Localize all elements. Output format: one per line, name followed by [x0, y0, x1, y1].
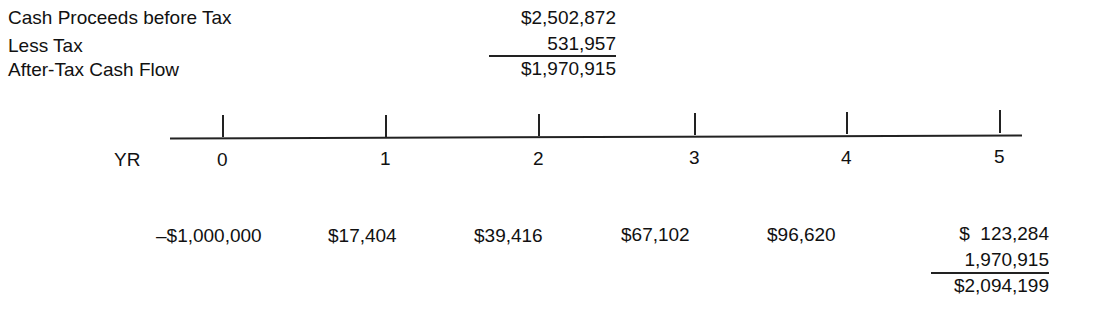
- tick-year-3: [694, 113, 696, 135]
- cash-flow-year-2: $39,416: [474, 225, 543, 247]
- tick-year-1: [385, 115, 387, 137]
- year-label-1: 1: [380, 148, 391, 170]
- year-label-2: 2: [533, 148, 544, 170]
- timeline-axis: [170, 135, 1022, 140]
- cash-flow-year-5: $ 123,284: [900, 223, 1049, 245]
- summary-value-tax: 531,957: [460, 33, 616, 55]
- summary-label-tax: Less Tax: [8, 35, 83, 57]
- summary-underline: [489, 55, 616, 57]
- year-label-5: 5: [994, 146, 1005, 168]
- cash-flow-year-4: $96,620: [767, 224, 836, 246]
- summary-value-after-tax: $1,970,915: [460, 58, 616, 80]
- summary-label-proceeds: Cash Proceeds before Tax: [8, 7, 232, 29]
- year5-underline: [931, 272, 1049, 274]
- cash-flow-year-1: $17,404: [328, 225, 397, 247]
- cash-flow-year-5-total: $2,094,199: [900, 275, 1049, 297]
- summary-value-proceeds: $2,502,872: [460, 7, 616, 29]
- tick-year-0: [222, 115, 224, 137]
- year-label-0: 0: [217, 149, 228, 171]
- tick-year-4: [846, 112, 848, 134]
- axis-label-yr: YR: [114, 149, 140, 171]
- cash-flow-year-5-addition: 1,970,915: [900, 249, 1049, 271]
- tick-year-5: [999, 110, 1001, 133]
- cash-flow-year-0: –$1,000,000: [156, 225, 262, 247]
- tick-year-2: [538, 114, 540, 136]
- summary-label-after-tax: After-Tax Cash Flow: [8, 59, 179, 81]
- year-label-3: 3: [689, 147, 700, 169]
- year-label-4: 4: [841, 147, 852, 169]
- cash-flow-year-3: $67,102: [621, 224, 690, 246]
